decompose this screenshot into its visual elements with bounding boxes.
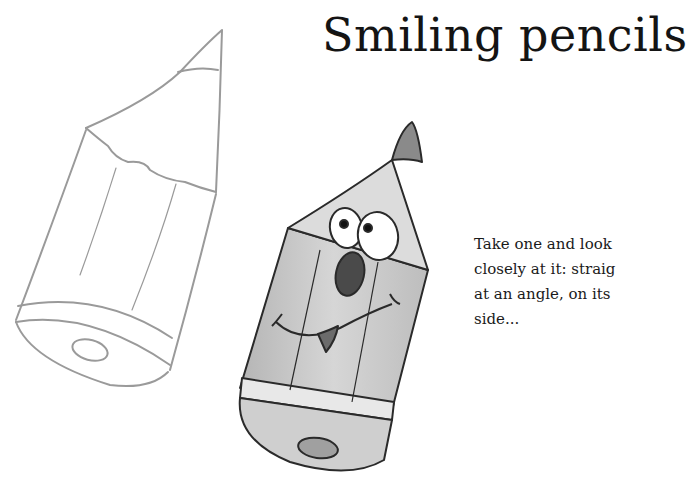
cartoon-pencil-tip <box>392 122 422 162</box>
left-pupil <box>340 220 348 228</box>
right-pupil <box>364 224 372 232</box>
